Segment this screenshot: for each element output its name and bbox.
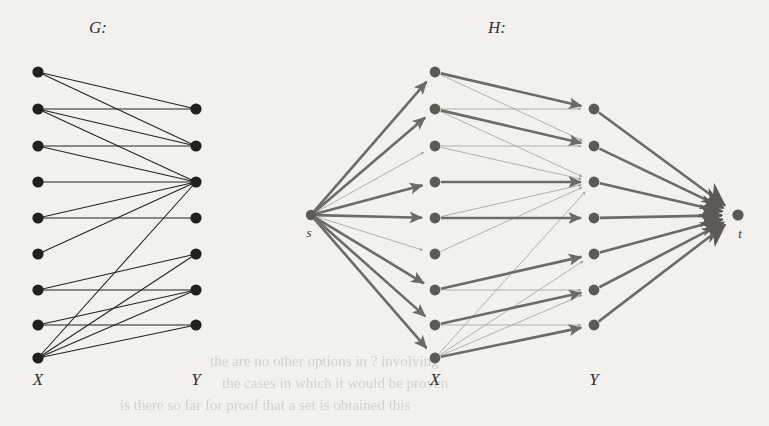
graph-h-x-node — [430, 67, 441, 78]
graph-g-y-node — [190, 176, 201, 187]
graph-g-x-node — [32, 176, 43, 187]
graph-h-title: H: — [487, 18, 506, 37]
graph-h-y-node — [589, 177, 600, 188]
sink-node-label: t — [738, 226, 742, 241]
source-node — [306, 210, 316, 220]
figure-root: the are no other options in ? involvingt… — [0, 0, 769, 426]
bleed-text-line: is there so far for proof that a set is … — [120, 397, 411, 413]
graph-g-x-node — [32, 284, 43, 295]
graph-g-x-label: X — [32, 370, 44, 389]
graph-h-y-label: Y — [589, 370, 600, 389]
graph-g-x-node — [32, 319, 43, 330]
graph-g-x-node — [32, 140, 43, 151]
graph-h-y-node — [589, 249, 600, 260]
graph-g-y-node — [190, 319, 201, 330]
graph-h-x-node — [430, 141, 441, 152]
graph-g-x-node — [32, 352, 43, 363]
graph-h-y-node — [589, 104, 600, 115]
graph-g-y-node — [190, 284, 201, 295]
graph-g-x-node — [32, 66, 43, 77]
graph-g-y-node — [190, 103, 201, 114]
graph-h-x-node — [430, 104, 441, 115]
graph-h-y-node — [589, 213, 600, 224]
graph-h-x-node — [430, 353, 441, 364]
graph-g-y-node — [190, 140, 201, 151]
graph-h-x-node — [430, 285, 441, 296]
graph-g-y-node — [190, 212, 201, 223]
graph-h-x-node — [430, 213, 441, 224]
graph-g-x-node — [32, 212, 43, 223]
graph-h-y-node — [589, 141, 600, 152]
bleed-text-line: the cases in which it would be proven — [222, 375, 449, 391]
graph-h-y-node — [589, 320, 600, 331]
graph-g-y-label: Y — [191, 370, 202, 389]
source-node-label: s — [306, 225, 311, 240]
graph-h-x-node — [430, 177, 441, 188]
graph-g-y-node — [190, 248, 201, 259]
sink-node — [732, 209, 743, 220]
graph-g-title: G: — [89, 18, 107, 37]
figure-canvas: the are no other options in ? involvingt… — [0, 0, 769, 426]
graph-h-x-node — [430, 249, 441, 260]
graph-h-x-label: X — [429, 370, 441, 389]
graph-h-y-node — [589, 285, 600, 296]
graph-g-x-node — [32, 103, 43, 114]
bleed-text-line: the are no other options in ? involving — [210, 353, 439, 369]
graph-h-x-node — [430, 320, 441, 331]
graph-g-x-node — [32, 248, 43, 259]
